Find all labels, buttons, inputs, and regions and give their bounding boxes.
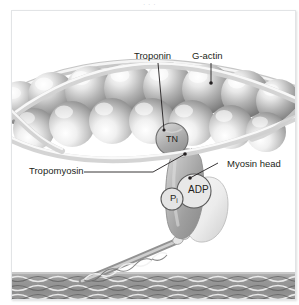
figure-root: · · · <box>0 0 299 305</box>
label-troponin-tn: TN <box>166 135 178 144</box>
actin-sphere <box>49 101 95 147</box>
actin-sphere <box>89 98 135 144</box>
top-caption-fragment: · · · <box>0 0 299 9</box>
label-troponin: Troponin <box>134 50 171 61</box>
label-adp: ADP <box>188 185 209 195</box>
label-myosin-head: Myosin head <box>227 158 281 169</box>
label-g-actin: G-actin <box>192 50 223 61</box>
label-pi: Pi <box>170 193 178 203</box>
figure-frame: Troponin G-actin Tropomyosin Myosin head… <box>11 10 296 300</box>
thick-filament <box>12 272 295 299</box>
label-pi-subscript: i <box>176 197 177 204</box>
label-tropomyosin: Tropomyosin <box>29 165 84 176</box>
